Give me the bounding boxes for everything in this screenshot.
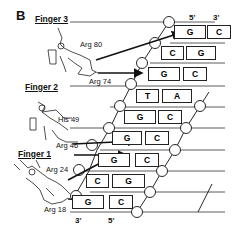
residue-arg74: Arg 74 [89, 78, 111, 86]
strand-end-top-left: 5' [189, 14, 195, 22]
base-right-7: C [135, 153, 159, 167]
strand-end-bottom-right: 5' [108, 217, 114, 225]
base-right-9: C [109, 195, 133, 209]
base-left-3: G [148, 67, 180, 81]
base-left-7: G [98, 153, 130, 167]
base-right-6: C [145, 131, 169, 145]
strand-end-bottom-left: 3' [75, 217, 81, 225]
base-left-1: G [174, 25, 206, 39]
base-right-3: C [183, 67, 207, 81]
finger-3-label: Finger 3 [35, 15, 68, 24]
base-left-6: G [112, 131, 142, 145]
base-right-1: C [207, 25, 231, 39]
base-left-4: T [136, 89, 159, 103]
residue-arg80: Arg 80 [80, 41, 102, 49]
base-left-5: G [124, 110, 156, 124]
base-left-2: C [161, 46, 184, 60]
base-right-4: A [162, 89, 192, 103]
residue-arg46: Arg 46 [56, 142, 78, 150]
base-right-8: G [112, 174, 145, 188]
finger-1-label: Finger 1 [18, 150, 51, 159]
strand-end-top-right: 3' [213, 14, 219, 22]
residue-arg18: Arg 18 [44, 206, 66, 214]
base-left-9: G [72, 195, 104, 209]
residue-his49: His 49 [58, 116, 79, 124]
base-left-8: C [86, 174, 109, 188]
base-right-5: C [158, 110, 182, 124]
residue-arg24: Arg 24 [46, 166, 68, 174]
base-right-2: G [186, 46, 216, 60]
finger-2-label: Finger 2 [25, 83, 58, 92]
panel-label: B [16, 9, 25, 22]
